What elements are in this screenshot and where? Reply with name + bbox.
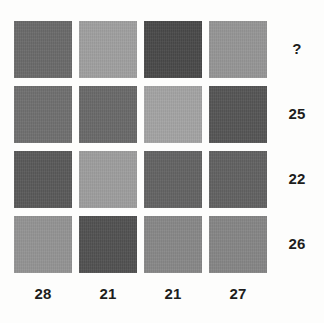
grayscale-grid-puzzle: ? 25 22 26 28 21 21 27 bbox=[0, 0, 324, 323]
swatch-cell[interactable] bbox=[209, 151, 267, 208]
column-total-4: 27 bbox=[209, 284, 267, 304]
swatch-cell[interactable] bbox=[209, 86, 267, 143]
column-total-2: 21 bbox=[79, 284, 137, 304]
swatch-cell[interactable] bbox=[144, 216, 202, 273]
swatch-cell[interactable] bbox=[14, 216, 72, 273]
swatch-cell[interactable] bbox=[144, 21, 202, 78]
swatch-cell[interactable] bbox=[144, 86, 202, 143]
swatch-cell[interactable] bbox=[209, 216, 267, 273]
swatch-cell[interactable] bbox=[209, 21, 267, 78]
swatch-cell[interactable] bbox=[14, 86, 72, 143]
swatch-cell[interactable] bbox=[79, 21, 137, 78]
column-total-1: 28 bbox=[14, 284, 72, 304]
row-total-2: 25 bbox=[281, 104, 313, 124]
swatch-cell[interactable] bbox=[79, 151, 137, 208]
swatch-cell[interactable] bbox=[144, 151, 202, 208]
row-total-1: ? bbox=[281, 39, 313, 59]
column-total-3: 21 bbox=[144, 284, 202, 304]
row-total-4: 26 bbox=[281, 234, 313, 254]
row-total-3: 22 bbox=[281, 169, 313, 189]
swatch-cell[interactable] bbox=[14, 21, 72, 78]
swatch-cell[interactable] bbox=[79, 86, 137, 143]
swatch-cell[interactable] bbox=[79, 216, 137, 273]
swatch-cell[interactable] bbox=[14, 151, 72, 208]
swatch-grid bbox=[14, 21, 268, 273]
